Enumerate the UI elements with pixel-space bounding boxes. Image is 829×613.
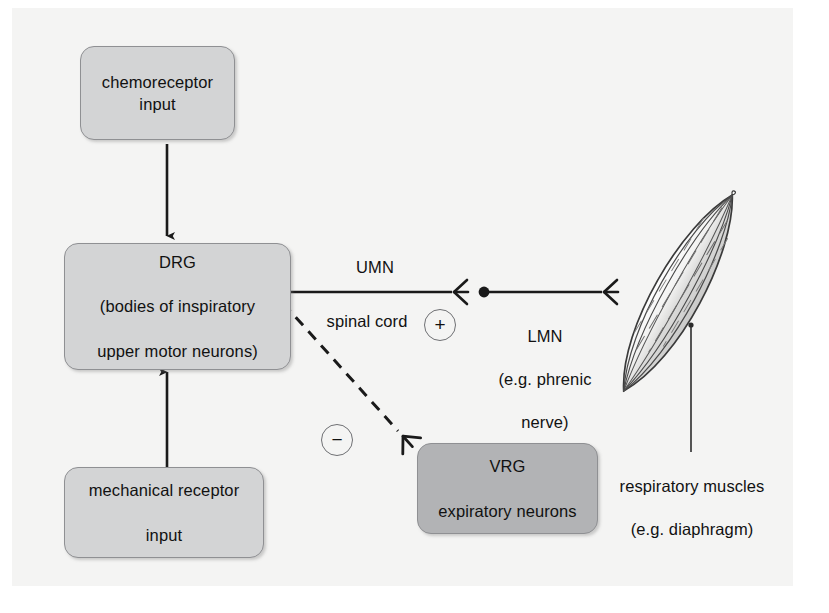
node-drg[interactable]: DRG (bodies of inspiratory upper motor n… <box>64 243 291 370</box>
connector-umn-axon <box>271 280 468 304</box>
badge-excitatory-plus: + <box>424 309 456 341</box>
diagram-canvas: chemoreceptor input DRG (bodies of inspi… <box>0 0 829 613</box>
node-drg-line2: (bodies of inspiratory <box>89 295 266 317</box>
node-mechanical-line1: mechanical receptor <box>81 479 247 501</box>
muscle-spindle-icon <box>603 179 756 402</box>
node-mechanical-receptor-input[interactable]: mechanical receptor input <box>64 467 264 558</box>
node-drg-line3: upper motor neurons) <box>89 340 266 362</box>
node-vrg[interactable]: VRG expiratory neurons <box>417 443 598 534</box>
node-chemoreceptor-label: chemoreceptor input <box>81 71 234 116</box>
connector-lmn-axon <box>479 280 618 304</box>
node-drg-line1: DRG <box>89 251 266 273</box>
connector-drg-to-vrg <box>283 303 421 455</box>
node-mechanical-line2: input <box>81 524 247 546</box>
node-vrg-line2: expiratory neurons <box>430 500 584 522</box>
node-vrg-label: VRG expiratory neurons <box>422 455 592 522</box>
node-drg-label: DRG (bodies of inspiratory upper motor n… <box>81 251 274 362</box>
badge-inhibitory-minus: − <box>321 424 353 456</box>
node-chemoreceptor-input[interactable]: chemoreceptor input <box>80 46 235 140</box>
node-mechanical-label: mechanical receptor input <box>73 479 255 546</box>
node-vrg-line1: VRG <box>430 455 584 477</box>
muscle-leader-line <box>688 322 693 452</box>
